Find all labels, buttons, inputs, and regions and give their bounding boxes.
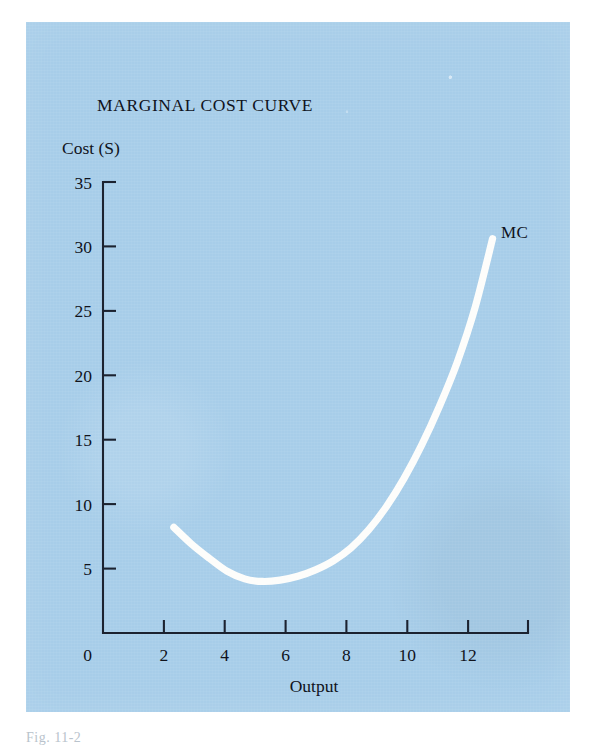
x-axis-tick-labels: 2 4 6 8 10 12 xyxy=(160,645,477,665)
x-tick-label: 2 xyxy=(160,645,169,665)
figure-panel: MARGINAL COST CURVE Cost (S) 35 30 25 20… xyxy=(26,22,570,712)
y-tick-label: 5 xyxy=(83,559,92,579)
y-axis-tick-labels: 35 30 25 20 15 10 5 0 xyxy=(75,173,93,665)
y-axis-ticks xyxy=(103,182,116,569)
x-tick-label: 12 xyxy=(459,645,477,665)
y-tick-label-zero: 0 xyxy=(83,645,92,665)
x-axis-label-text: Output xyxy=(290,676,339,696)
x-tick-label: 10 xyxy=(399,645,417,665)
marginal-cost-plot: 35 30 25 20 15 10 5 0 2 4 6 8 10 12 xyxy=(26,22,570,712)
x-tick-label: 4 xyxy=(220,645,229,665)
x-tick-label: 6 xyxy=(281,645,290,665)
x-tick-label: 8 xyxy=(342,645,351,665)
x-axis-ticks xyxy=(164,620,528,633)
y-tick-label: 10 xyxy=(75,495,93,515)
y-tick-label: 20 xyxy=(75,366,93,386)
figure-caption: Fig. 11-2 xyxy=(26,730,81,745)
y-tick-label: 30 xyxy=(75,237,93,257)
y-tick-label: 35 xyxy=(75,173,93,193)
y-tick-label: 15 xyxy=(75,430,93,450)
mc-curve-label: MC xyxy=(501,223,528,243)
plot-axes xyxy=(103,182,528,633)
marginal-cost-curve xyxy=(174,239,493,582)
x-axis-label: Output xyxy=(26,676,570,697)
y-tick-label: 25 xyxy=(75,301,93,321)
